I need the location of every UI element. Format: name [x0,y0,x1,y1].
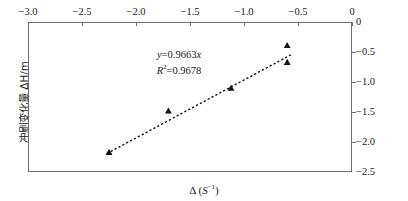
y-tick-label: −1.5 [356,106,390,117]
y-tick-label: −2.0 [356,136,390,147]
chart-figure: 冲刷变化量 ΔH/m −3.0−2.5−2.0−1.5−1.0−0.500−0.… [0,0,408,201]
data-point-marker [165,107,172,113]
y-tick-label: 0 [356,16,390,27]
equation-rest: =0.9663 [162,49,197,60]
y-tick-label: −0.5 [356,46,390,57]
x-tick-mark [352,22,353,26]
data-point-marker [284,59,291,65]
y-tick-label: −1.0 [356,76,390,87]
x-tick-label: −2.0 [116,6,156,17]
x-tick-label: −1.0 [224,6,264,17]
plot-data-layer [28,22,352,172]
x-title-delta: Δ ( [189,184,202,196]
regression-equation: y=0.9663x [120,48,238,61]
r-squared-value: R2=0.9678 [120,61,238,77]
equation-annotation: y=0.9663x R2=0.9678 [120,48,238,77]
x-title-close: ) [215,184,219,196]
x-tick-label: −2.5 [62,6,102,17]
r-squared-rest: =0.9678 [167,65,202,76]
x-tick-label: −3.0 [8,6,48,17]
x-title-exponent: −1 [208,183,215,191]
data-point-marker [284,42,291,48]
y-tick-label: −2.5 [356,166,390,177]
x-tick-label: −0.5 [278,6,318,17]
x-axis-title: Δ (S−1) [0,181,408,197]
x-tick-label: −1.5 [170,6,210,17]
